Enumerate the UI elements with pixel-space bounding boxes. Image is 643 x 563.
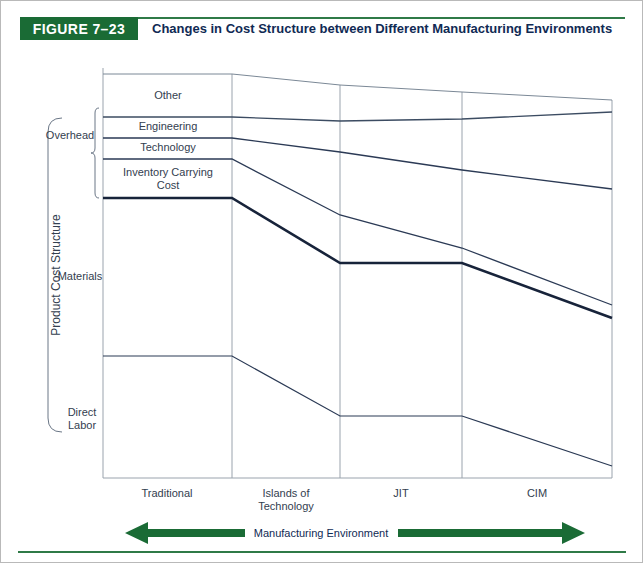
x-axis-title: Manufacturing Environment <box>245 527 397 539</box>
band-label-other-line1: Other <box>103 89 233 102</box>
band-label-technology: Technology <box>103 141 233 154</box>
boundary-materials-bottom <box>103 356 612 466</box>
group-label-overhead: Overhead <box>42 129 98 142</box>
y-axis-title: Product Cost Structure <box>49 175 63 375</box>
x-axis-label-jit: JIT <box>326 487 476 500</box>
band-label-inventory-line1: Inventory Carrying <box>103 166 233 179</box>
figure-container: FIGURE 7–23 Changes in Cost Structure be… <box>0 0 643 563</box>
group-label-direct-labor: Direct Labor <box>58 406 106 432</box>
band-label-technology-line1: Technology <box>103 141 233 154</box>
x-axis-label-islands-line2: Technology <box>211 500 361 513</box>
group-label-direct-labor-line2: Labor <box>58 419 106 432</box>
x-axis-label-jit-line1: JIT <box>326 487 476 500</box>
band-label-inventory-line2: Cost <box>103 179 233 192</box>
x-axis-label-cim-line1: CIM <box>462 487 612 500</box>
boundary-overhead-bottom <box>103 198 612 318</box>
band-label-engineering-line1: Engineering <box>103 120 233 133</box>
footer-rule <box>18 551 626 553</box>
band-label-engineering: Engineering <box>103 120 233 133</box>
group-label-direct-labor-line1: Direct <box>58 406 106 419</box>
x-axis-label-cim: CIM <box>462 487 612 500</box>
band-label-other: Other <box>103 89 233 102</box>
band-label-inventory-carrying-cost: Inventory Carrying Cost <box>103 166 233 192</box>
overhead-bracket <box>91 108 99 198</box>
